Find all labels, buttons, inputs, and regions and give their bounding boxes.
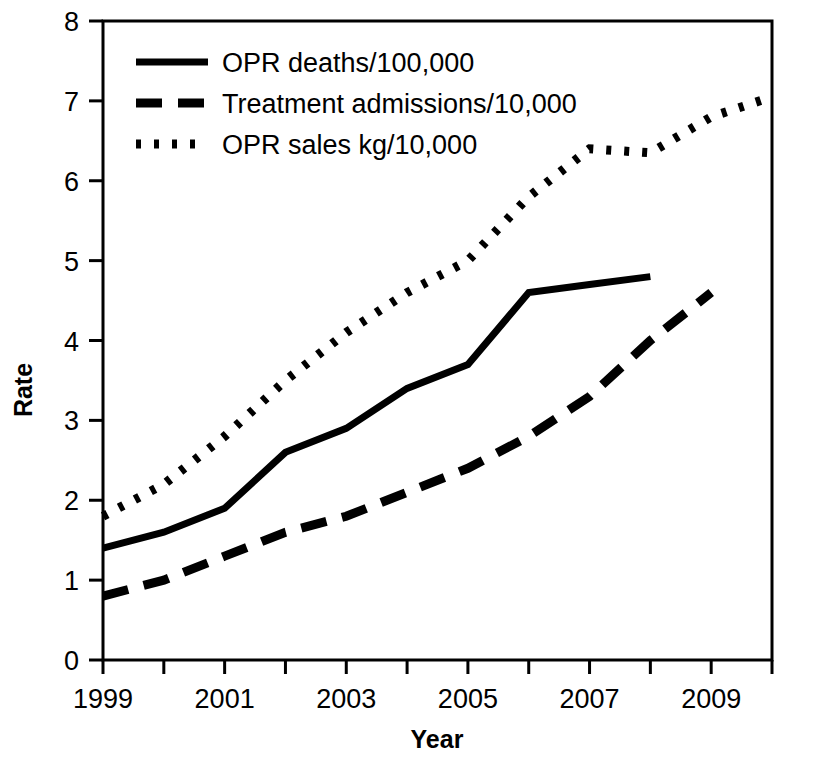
x-axis-tick-labels: 199920012003200520072009 <box>73 684 741 714</box>
legend-label-3: OPR sales kg/10,000 <box>222 130 477 160</box>
x-tick-label: 2005 <box>438 684 498 714</box>
x-axis-ticks <box>103 660 772 674</box>
chart-legend: OPR deaths/100,000Treatment admissions/1… <box>136 48 577 160</box>
x-tick-label: 2003 <box>316 684 376 714</box>
x-tick-label: 2001 <box>195 684 255 714</box>
y-tick-label: 6 <box>64 167 79 197</box>
y-tick-label: 3 <box>64 406 79 436</box>
x-tick-label: 2007 <box>560 684 620 714</box>
y-tick-label: 2 <box>64 486 79 516</box>
series-line-2 <box>103 293 711 597</box>
chart-figure: 012345678 199920012003200520072009 Rate … <box>0 0 817 762</box>
x-tick-label: 1999 <box>73 684 133 714</box>
y-tick-label: 1 <box>64 566 79 596</box>
series-line-1 <box>103 277 650 549</box>
data-series-group <box>103 97 772 596</box>
y-tick-label: 4 <box>64 327 79 357</box>
y-tick-label: 5 <box>64 247 79 277</box>
x-tick-label: 2009 <box>681 684 741 714</box>
y-tick-label: 0 <box>64 646 79 676</box>
y-axis-title: Rate <box>9 363 37 417</box>
line-chart: 012345678 199920012003200520072009 Rate … <box>0 0 817 762</box>
y-axis-ticks <box>89 21 103 660</box>
y-axis-tick-labels: 012345678 <box>64 7 79 676</box>
legend-label-2: Treatment admissions/10,000 <box>222 89 577 119</box>
legend-label-1: OPR deaths/100,000 <box>222 48 474 78</box>
y-tick-label: 8 <box>64 7 79 37</box>
x-axis-title: Year <box>411 725 464 753</box>
y-tick-label: 7 <box>64 87 79 117</box>
